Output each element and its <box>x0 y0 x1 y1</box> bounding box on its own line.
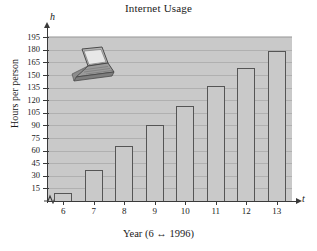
y-axis-tick <box>43 163 49 164</box>
gridline <box>48 163 292 164</box>
gridline <box>48 125 292 126</box>
y-axis-tick <box>43 88 49 89</box>
y-axis-tick-label: 105 <box>18 108 40 116</box>
bar <box>268 51 286 201</box>
gridline <box>48 113 292 114</box>
chart-title: Internet Usage <box>0 2 317 14</box>
x-axis-tick-label: 6 <box>53 206 73 216</box>
gridline <box>48 100 292 101</box>
x-axis-tick <box>124 201 125 205</box>
x-axis-tick-label: 8 <box>114 206 134 216</box>
bar <box>115 146 133 201</box>
laptop-illustration <box>62 46 118 88</box>
y-axis-tick-label: 30 <box>18 171 40 179</box>
x-axis-tick <box>185 201 186 205</box>
y-axis-tick <box>43 113 49 114</box>
gridline <box>48 151 292 152</box>
y-axis-tick-label: 120 <box>18 96 40 104</box>
x-axis-tick-label: 13 <box>267 206 287 216</box>
y-axis-tick <box>43 75 49 76</box>
x-axis-tick <box>155 201 156 205</box>
chart-figure: Internet Usage h t 15304 <box>0 0 317 251</box>
y-axis-tick-label: 90 <box>18 121 40 129</box>
y-axis-tick <box>43 62 49 63</box>
y-axis-title: Hours per person <box>9 34 20 154</box>
x-axis-tick-label: 12 <box>236 206 256 216</box>
x-axis-variable-label: t <box>302 193 305 204</box>
x-axis-tick-label: 11 <box>206 206 226 216</box>
bar <box>146 125 164 201</box>
gridline <box>48 138 292 139</box>
gridline <box>48 37 292 38</box>
y-axis-tick-label: 45 <box>18 159 40 167</box>
y-axis-tick-label: 165 <box>18 58 40 66</box>
x-axis-tick-label: 10 <box>175 206 195 216</box>
y-axis-tick-label: 60 <box>18 146 40 154</box>
y-axis-variable-label: h <box>50 11 55 22</box>
x-axis-line <box>47 201 297 202</box>
y-axis-tick <box>43 138 49 139</box>
x-axis-title: Year (6 ↔ 1996) <box>0 228 317 239</box>
y-axis-tick-label: 15 <box>18 184 40 192</box>
bar <box>85 170 103 201</box>
y-axis-tick <box>43 100 49 101</box>
y-axis-tick <box>43 125 49 126</box>
y-axis-tick-label: 195 <box>18 33 40 41</box>
bar <box>54 193 72 201</box>
bar <box>237 68 255 201</box>
bar <box>176 106 194 201</box>
y-axis-tick <box>43 188 49 189</box>
x-axis-tick <box>94 201 95 205</box>
y-axis-tick-label: 135 <box>18 83 40 91</box>
y-axis-tick-label: 180 <box>18 45 40 53</box>
y-axis-tick-label: 150 <box>18 71 40 79</box>
y-axis-tick <box>43 50 49 51</box>
bar <box>207 86 225 201</box>
x-axis-tick <box>277 201 278 205</box>
x-axis-tick <box>246 201 247 205</box>
y-axis-tick <box>43 151 49 152</box>
x-axis-tick-label: 7 <box>84 206 104 216</box>
y-axis-tick-label: 75 <box>18 134 40 142</box>
x-axis-tick <box>216 201 217 205</box>
x-axis-tick-label: 9 <box>145 206 165 216</box>
y-axis-tick <box>43 37 49 38</box>
x-axis-tick <box>63 201 64 205</box>
y-axis-tick <box>43 176 49 177</box>
y-axis-arrow <box>44 22 50 28</box>
